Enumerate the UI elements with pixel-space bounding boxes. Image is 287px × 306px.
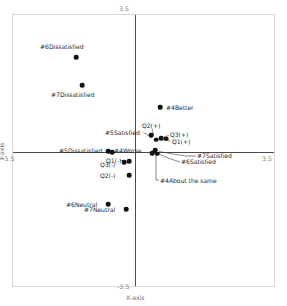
data-point (74, 55, 79, 60)
point-label-4about-the-same: #4About the same (160, 177, 217, 184)
x-axis-title: X-axis (126, 294, 145, 301)
x-axis-line (13, 152, 274, 153)
data-point (149, 133, 154, 138)
data-point (127, 173, 132, 178)
x-axis-max-tick: 3.5 (262, 155, 272, 162)
point-label-q1-plus: Q1(+) (172, 138, 190, 145)
data-point (154, 137, 159, 142)
y-axis-min-tick: -3.5 (117, 283, 129, 290)
point-label-5satisfied: #5Satisfied (105, 129, 140, 136)
plot-frame (12, 14, 275, 287)
point-label-6dissatisfied: #6Dissatisfied (40, 43, 83, 50)
data-point (80, 83, 85, 88)
point-label-q2-plus: Q2(+) (142, 122, 160, 129)
point-label-q3-plus: Q3(+) (170, 131, 188, 138)
data-point (164, 136, 169, 141)
data-point (122, 160, 127, 165)
data-point (127, 159, 132, 164)
scatter-plot-figure: 3.5 -3.5 3.5 -3.5 X-axis Y-axis #6Dissat… (0, 0, 287, 306)
y-axis-max-tick: 3.5 (119, 5, 129, 12)
data-point (159, 136, 164, 141)
data-point (155, 151, 160, 156)
point-label-4worse: #4Worse (114, 147, 141, 154)
point-label-q3-minus: Q3(-) (100, 161, 115, 168)
point-label-q2-minus: Q2(-) (100, 172, 115, 179)
point-label-5dissatisfied: #5Dissatisfied (59, 147, 102, 154)
data-point (124, 207, 129, 212)
data-point (158, 105, 163, 110)
data-point (150, 151, 155, 156)
y-axis-title: Y-axis (0, 143, 5, 161)
point-label-4better: #4Better (166, 104, 194, 111)
point-label-6satisfied: #6Satisfied (181, 158, 216, 165)
point-label-7dissatisfied: #7Dissatisfied (51, 91, 94, 98)
point-label-7neutral: #7Neutral (84, 206, 115, 213)
